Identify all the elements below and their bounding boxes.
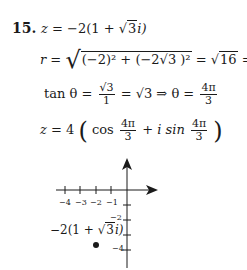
x-tick-label-minus2: −2 xyxy=(90,198,102,207)
point-z xyxy=(93,242,99,248)
y-tick-label-minus2: −2 xyxy=(110,213,122,222)
x-tick-label-minus4: −4 xyxy=(59,198,71,207)
x-tick-label-minus1: −1 xyxy=(106,198,118,207)
y-tick-label-minus4: −4 xyxy=(112,244,124,253)
x-tick-label-minus3: −3 xyxy=(75,198,87,207)
point-label: −2(1 + √3i) xyxy=(50,223,124,237)
